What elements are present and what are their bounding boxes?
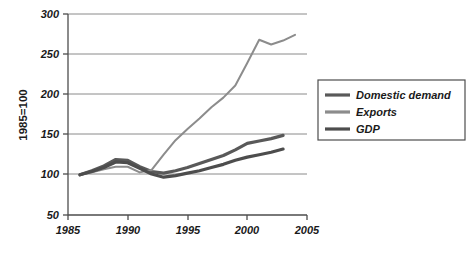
x-tick-label-1985: 1985	[56, 224, 81, 236]
chart-figure: 300 250 200 150 100 50 1985 1990 1995 20…	[0, 0, 476, 256]
y-axis-title: 1985=100	[17, 89, 29, 141]
line-chart: 300 250 200 150 100 50 1985 1990 1995 20…	[0, 0, 476, 256]
y-tick-label-200: 200	[40, 88, 60, 100]
x-axis-tick-labels: 1985 1990 1995 2000 2005	[56, 224, 320, 236]
legend-label-gdp: GDP	[356, 123, 381, 135]
y-axis-tick-labels: 300 250 200 150 100 50	[40, 8, 60, 221]
y-tick-label-50: 50	[47, 209, 60, 221]
x-tick-label-2000: 2000	[234, 224, 260, 236]
legend-label-domestic-demand: Domestic demand	[356, 89, 451, 101]
y-tick-label-100: 100	[41, 168, 60, 180]
x-tick-label-2005: 2005	[294, 224, 320, 236]
y-tick-label-300: 300	[41, 8, 60, 20]
y-axis-ticks	[63, 14, 68, 215]
y-tick-label-150: 150	[41, 128, 60, 140]
y-tick-label-250: 250	[40, 48, 60, 60]
x-axis-ticks	[68, 215, 307, 220]
chart-legend: Domestic demand Exports GDP	[318, 80, 465, 140]
x-tick-label-1990: 1990	[116, 224, 141, 236]
x-tick-label-1995: 1995	[176, 224, 201, 236]
legend-label-exports: Exports	[356, 106, 397, 118]
